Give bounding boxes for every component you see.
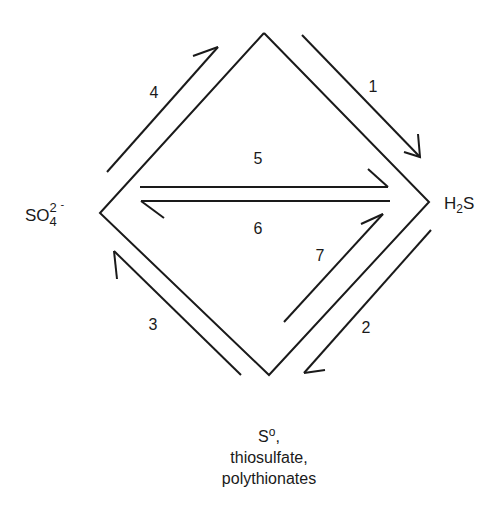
- sulfate-base: SO: [25, 206, 50, 225]
- species-hydrogen-sulfide: H2S: [444, 195, 474, 215]
- sulfate-superscript: 2: [50, 201, 57, 214]
- step-label-4: 4: [150, 85, 159, 101]
- elemental-sulfur-base: S: [258, 428, 269, 445]
- species-intermediates: So, thiosulfate, polythionates: [222, 422, 316, 489]
- arrow-3: [114, 251, 241, 375]
- species-sulfate: SO24-: [25, 206, 62, 228]
- intermediates-line-2: thiosulfate,: [222, 447, 316, 468]
- arrow-4: [107, 47, 218, 172]
- arrow-1: [302, 35, 420, 157]
- h2s-pre: H: [444, 194, 456, 213]
- step-label-2: 2: [362, 320, 371, 336]
- step-label-6: 6: [254, 221, 263, 237]
- h2s-post: S: [463, 194, 474, 213]
- intermediates-line-1: So,: [222, 422, 316, 447]
- step-label-3: 3: [149, 317, 158, 333]
- intermediates-line-3: polythionates: [222, 468, 316, 489]
- step-label-5: 5: [254, 151, 263, 167]
- arrow-6: [141, 201, 390, 218]
- h2s-subscript: 2: [456, 202, 463, 216]
- step-label-1: 1: [369, 79, 378, 95]
- sulfate-subscript: 4: [50, 215, 57, 228]
- sulfate-sub-sup: 24-: [50, 206, 62, 228]
- arrow-5: [140, 169, 388, 187]
- sulfate-charge: -: [61, 199, 65, 210]
- step-label-7: 7: [316, 248, 325, 264]
- elemental-sulfur-sup: o: [269, 425, 276, 439]
- elemental-sulfur-suffix: ,: [275, 428, 279, 445]
